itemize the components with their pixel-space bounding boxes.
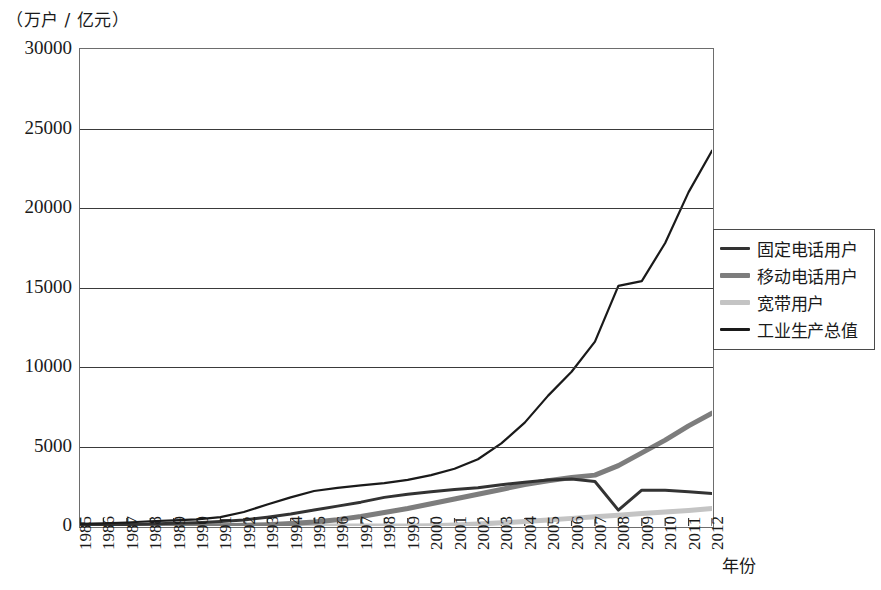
legend-label: 工业生产总值 [757, 317, 858, 342]
x-tick-label: 1997 [358, 532, 376, 550]
legend-item[interactable]: 移动电话用户 [720, 262, 870, 289]
gridline [80, 367, 713, 368]
x-tick-label: 1990 [194, 532, 212, 550]
x-tick-label: 1996 [334, 532, 352, 550]
x-tick-label: 1991 [217, 532, 235, 550]
x-tick-label: 1989 [171, 532, 189, 550]
gridline [80, 447, 713, 448]
x-tick-label: 1987 [124, 532, 142, 550]
x-tick-label: 2009 [639, 532, 657, 550]
x-tick-label: 2001 [452, 532, 470, 550]
x-tick-label: 2004 [522, 532, 540, 550]
x-tick-label: 2002 [475, 532, 493, 550]
legend-swatch-icon [720, 273, 750, 278]
y-tick-label: 20000 [0, 197, 72, 216]
x-tick-label: 2003 [498, 532, 516, 550]
plot-area [79, 48, 714, 528]
x-tick-label: 2012 [709, 532, 727, 550]
legend-label: 宽带用户 [757, 290, 824, 315]
y-tick-label: 15000 [0, 277, 72, 296]
x-tick-label: 1993 [264, 532, 282, 550]
x-tick-label: 1985 [77, 532, 95, 550]
legend-swatch-icon [720, 328, 750, 331]
x-tick-label: 1986 [100, 532, 118, 550]
legend-item[interactable]: 工业生产总值 [720, 316, 870, 343]
gridline [80, 288, 713, 289]
x-tick-label: 1995 [311, 532, 329, 550]
legend-label: 移动电话用户 [757, 263, 858, 288]
legend-swatch-icon [720, 247, 750, 250]
y-tick-label: 5000 [0, 436, 72, 455]
y-tick-label: 25000 [0, 118, 72, 137]
x-axis-title: 年份 [722, 552, 756, 577]
x-tick-label: 1998 [381, 532, 399, 550]
legend-swatch-icon [720, 300, 750, 305]
y-tick-label: 0 [0, 515, 72, 534]
gridline [80, 208, 713, 209]
y-axis-tick-labels: 050001000015000200002500030000 [0, 0, 72, 590]
y-tick-label: 30000 [0, 38, 72, 57]
chart-legend: 固定电话用户移动电话用户宽带用户工业生产总值 [713, 229, 875, 350]
y-tick-label: 10000 [0, 356, 72, 375]
legend-item[interactable]: 宽带用户 [720, 289, 870, 316]
gridline [80, 129, 713, 130]
legend-label: 固定电话用户 [757, 236, 858, 261]
x-tick-label: 2005 [545, 532, 563, 550]
x-tick-label: 1988 [147, 532, 165, 550]
line-chart: （万户 / 亿元） 050001000015000200002500030000… [0, 0, 881, 590]
x-tick-label: 2010 [662, 532, 680, 550]
x-axis-tick-labels: 1985198619871988198919901991199219931994… [79, 528, 714, 590]
x-tick-label: 1994 [288, 532, 306, 550]
x-tick-label: 2006 [569, 532, 587, 550]
x-tick-label: 1992 [241, 532, 259, 550]
legend-item[interactable]: 固定电话用户 [720, 235, 870, 262]
x-tick-label: 1999 [405, 532, 423, 550]
x-tick-label: 2008 [615, 532, 633, 550]
x-tick-label: 2000 [428, 532, 446, 550]
x-tick-label: 2011 [686, 532, 704, 550]
x-tick-label: 2007 [592, 532, 610, 550]
